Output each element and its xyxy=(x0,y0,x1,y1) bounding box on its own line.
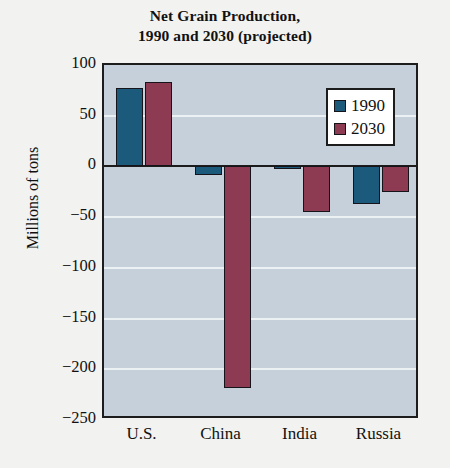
chart-title: Net Grain Production, 1990 and 2030 (pro… xyxy=(0,6,450,46)
bar-india-1990 xyxy=(274,166,301,169)
y-axis-tick-label: 100 xyxy=(36,55,96,71)
y-axis-tick-label: 50 xyxy=(36,106,96,122)
y-axis-tick-label: −100 xyxy=(36,258,96,274)
bar-china-1990 xyxy=(195,166,222,174)
legend-swatch-icon-2030 xyxy=(334,123,346,135)
chart-legend: 1990 2030 xyxy=(326,88,395,146)
y-axis-tick-label: −50 xyxy=(36,207,96,223)
legend-label-1990: 1990 xyxy=(351,97,385,114)
legend-item-2030: 2030 xyxy=(334,117,385,140)
bar-us-1990 xyxy=(116,88,143,166)
x-axis-tick-label: Russia xyxy=(324,424,434,444)
bar-russia-2030 xyxy=(382,166,409,191)
bar-china-2030 xyxy=(224,166,251,387)
chart-title-line-2: 1990 and 2030 (projected) xyxy=(0,26,450,46)
gridline xyxy=(104,318,416,320)
bar-us-2030 xyxy=(145,82,172,166)
y-axis-tick-label: −200 xyxy=(36,359,96,375)
legend-item-1990: 1990 xyxy=(334,94,385,117)
bar-russia-1990 xyxy=(353,166,380,204)
gridline xyxy=(104,368,416,370)
y-axis-tick-label: −150 xyxy=(36,309,96,325)
legend-swatch-icon-1990 xyxy=(334,100,346,112)
bar-india-2030 xyxy=(303,166,330,212)
chart-title-line-1: Net Grain Production, xyxy=(0,6,450,26)
gridline xyxy=(104,216,416,218)
gridline xyxy=(104,267,416,269)
chart-figure: Net Grain Production, 1990 and 2030 (pro… xyxy=(0,0,450,468)
y-axis-tick-label: 0 xyxy=(36,156,96,172)
legend-label-2030: 2030 xyxy=(351,120,385,137)
